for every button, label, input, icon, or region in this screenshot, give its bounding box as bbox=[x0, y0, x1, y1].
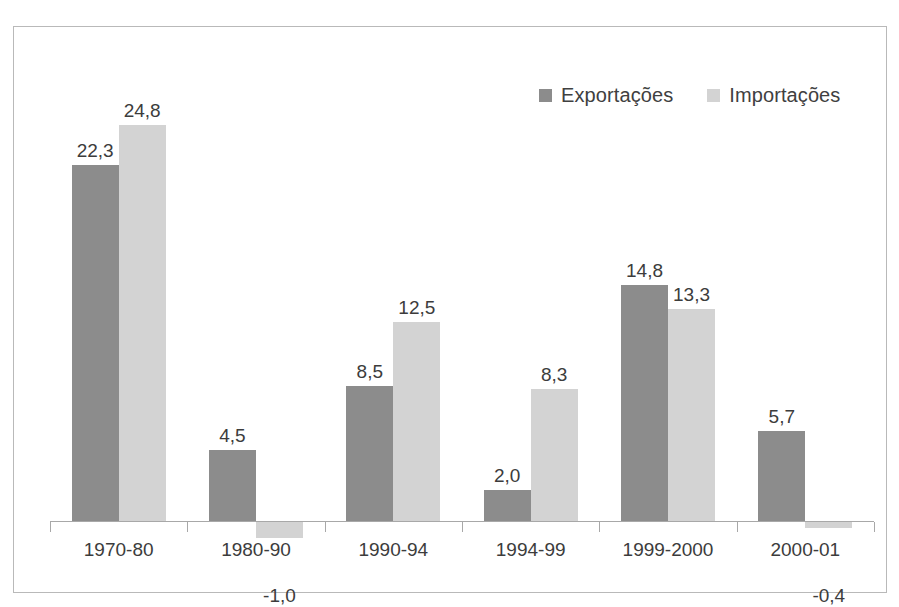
bar-group: 14,813,3 bbox=[599, 67, 736, 522]
axis-tick bbox=[325, 522, 326, 532]
bar-exportacoes[interactable] bbox=[346, 386, 393, 522]
bar-exportacoes[interactable] bbox=[758, 431, 805, 522]
bar-slot: 24,8 bbox=[119, 67, 166, 522]
bar-group: 5,7-0,4 bbox=[737, 67, 874, 522]
category-label: 1980-90 bbox=[221, 539, 291, 561]
bar-exportacoes[interactable] bbox=[72, 165, 119, 522]
bar-exportacoes[interactable] bbox=[209, 450, 256, 522]
axis-tick bbox=[462, 522, 463, 532]
bar-slot: 8,5 bbox=[346, 67, 393, 522]
bar-importacoes[interactable] bbox=[668, 309, 715, 522]
bar-value-label: -1,0 bbox=[263, 586, 296, 605]
bar-group: 22,324,8 bbox=[50, 67, 187, 522]
bar-group: 4,5-1,0 bbox=[187, 67, 324, 522]
axis-tick bbox=[187, 522, 188, 532]
bar-exportacoes[interactable] bbox=[484, 490, 531, 522]
bar-importacoes[interactable] bbox=[531, 389, 578, 522]
bar-value-label: 5,7 bbox=[769, 407, 795, 426]
axis-tick bbox=[50, 522, 51, 532]
x-axis-category-labels: 1970-801980-901990-941994-991999-2000200… bbox=[50, 539, 874, 565]
bar-slot: 5,7 bbox=[758, 67, 805, 522]
bar-importacoes[interactable] bbox=[119, 125, 166, 522]
plot-area: 22,324,84,5-1,08,512,52,08,314,813,35,7-… bbox=[50, 67, 874, 522]
bar-group: 2,08,3 bbox=[462, 67, 599, 522]
bar-slot: 8,3 bbox=[531, 67, 578, 522]
bar-slot: 12,5 bbox=[393, 67, 440, 522]
bar-value-label: 8,5 bbox=[357, 362, 383, 381]
bar-slot: -0,4 bbox=[805, 67, 852, 522]
bar-value-label: 14,8 bbox=[626, 261, 663, 280]
bar-slot: 22,3 bbox=[72, 67, 119, 522]
bar-slot: 13,3 bbox=[668, 67, 715, 522]
bar-value-label: 22,3 bbox=[77, 141, 114, 160]
bar-value-label: 4,5 bbox=[219, 426, 245, 445]
bar-importacoes[interactable] bbox=[393, 322, 440, 522]
category-label: 1970-80 bbox=[84, 539, 154, 561]
bar-exportacoes[interactable] bbox=[621, 285, 668, 522]
category-label: 1994-99 bbox=[496, 539, 566, 561]
category-label: 1999-2000 bbox=[623, 539, 714, 561]
axis-tick bbox=[737, 522, 738, 532]
bar-slot: 2,0 bbox=[484, 67, 531, 522]
category-label: 2000-01 bbox=[770, 539, 840, 561]
bar-slot: 4,5 bbox=[209, 67, 256, 522]
category-label: 1990-94 bbox=[358, 539, 428, 561]
bar-value-label: 24,8 bbox=[124, 101, 161, 120]
bar-importacoes[interactable] bbox=[805, 522, 852, 528]
chart-frame: Exportações Importações 22,324,84,5-1,08… bbox=[13, 26, 887, 593]
axis-tick bbox=[874, 522, 875, 532]
bar-importacoes[interactable] bbox=[256, 522, 303, 538]
bar-value-label: 8,3 bbox=[541, 365, 567, 384]
bar-slot: 14,8 bbox=[621, 67, 668, 522]
bar-slot: -1,0 bbox=[256, 67, 303, 522]
axis-tick bbox=[599, 522, 600, 532]
bar-value-label: 2,0 bbox=[494, 466, 520, 485]
bar-value-label: 12,5 bbox=[398, 298, 435, 317]
bar-value-label: -0,4 bbox=[812, 586, 845, 605]
bar-group: 8,512,5 bbox=[325, 67, 462, 522]
bar-value-label: 13,3 bbox=[673, 285, 710, 304]
